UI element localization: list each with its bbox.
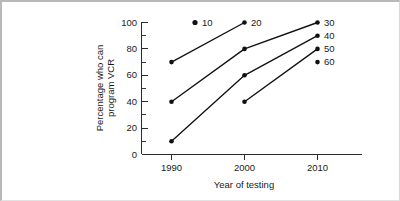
series-20-marker-2000 <box>242 20 247 25</box>
standalone-marker-60 <box>315 60 320 65</box>
series-50-label: 50 <box>324 43 335 54</box>
series-20-marker-1990 <box>169 60 174 65</box>
y-axis-title-line2: program VCR <box>105 59 116 117</box>
y-tick-label-40: 40 <box>126 96 137 107</box>
series-20-label: 20 <box>251 17 262 28</box>
y-axis-title-line1: Percentage who can <box>94 45 105 132</box>
series-30: 30 <box>169 17 334 104</box>
line-chart: 100 80 60 40 20 0 1990 2000 2010 Year of… <box>2 2 400 201</box>
x-axis: 1990 2000 2010 <box>142 155 363 174</box>
y-tick-label-60: 60 <box>126 69 137 80</box>
series-50-marker-2000 <box>242 99 247 104</box>
y-tick-label-20: 20 <box>126 122 137 133</box>
series-30-marker-2010 <box>315 20 320 25</box>
y-tick-label-0: 0 <box>132 149 137 160</box>
x-tick-label-2000: 2000 <box>234 162 255 173</box>
standalone-point-60: 60 <box>315 56 334 67</box>
series-40-line <box>172 36 318 142</box>
standalone-label-60: 60 <box>324 56 335 67</box>
series-50-marker-2010 <box>315 47 320 52</box>
series-40-label: 40 <box>324 30 335 41</box>
standalone-point-10: 10 <box>192 17 212 28</box>
series-40-marker-1990 <box>169 139 174 144</box>
series-30-label: 30 <box>324 17 335 28</box>
standalone-label-10: 10 <box>202 17 213 28</box>
series-40-marker-2010 <box>315 33 320 38</box>
series-20: 20 <box>169 17 261 65</box>
x-tick-label-1990: 1990 <box>161 162 182 173</box>
standalone-marker-10 <box>192 20 197 25</box>
series-30-marker-2000 <box>242 47 247 52</box>
y-tick-label-100: 100 <box>121 17 137 28</box>
figure-frame: 100 80 60 40 20 0 1990 2000 2010 Year of… <box>0 0 400 201</box>
series-30-marker-1990 <box>169 99 174 104</box>
y-axis: 100 80 60 40 20 0 <box>121 17 147 160</box>
y-tick-label-80: 80 <box>126 43 137 54</box>
y-axis-title: Percentage who can program VCR <box>94 45 116 132</box>
x-tick-label-2010: 2010 <box>307 162 328 173</box>
series-50-line <box>245 49 318 102</box>
x-axis-title: Year of testing <box>214 179 274 190</box>
series-30-line <box>172 23 318 102</box>
series-40-marker-2000 <box>242 73 247 78</box>
